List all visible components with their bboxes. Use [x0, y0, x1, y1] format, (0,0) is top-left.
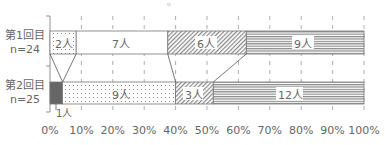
- segment-label-r1s1: 2人: [55, 35, 73, 51]
- segment-label-r2s4: 12人: [278, 86, 303, 102]
- segment-label-r1s3: 6人: [197, 35, 215, 51]
- connector-lines: [50, 54, 246, 82]
- x-tick-20: 20%: [101, 124, 125, 137]
- x-tick-30: 30%: [132, 124, 156, 137]
- x-tick-100: 100%: [348, 124, 379, 137]
- segment-label-r2s3: 3人: [185, 86, 203, 102]
- bar-row-2: [50, 82, 364, 104]
- x-tick-0: 0%: [41, 124, 58, 137]
- segment-label-r1s4: 9人: [294, 35, 312, 51]
- segment-label-r1s2: 7人: [112, 35, 130, 51]
- segment-label-r2s1: 1人: [56, 105, 72, 120]
- x-tick-50: 50%: [195, 124, 219, 137]
- x-tick-40: 40%: [163, 124, 187, 137]
- x-tick-80: 80%: [289, 124, 313, 137]
- x-tick-60: 60%: [226, 124, 250, 137]
- x-tick-70: 70%: [258, 124, 282, 137]
- x-tick-90: 90%: [320, 124, 344, 137]
- segment-label-r2s2: 9人: [112, 86, 130, 102]
- stacked-bar-chart: o 第1回目 n=24 第2回目 n=25: [0, 0, 385, 145]
- x-tick-10: 10%: [69, 124, 93, 137]
